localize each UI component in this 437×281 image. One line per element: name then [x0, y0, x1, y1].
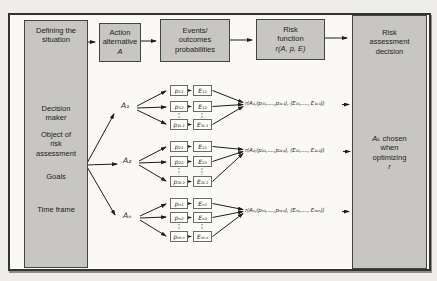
risk-formula-a1: r(A₁,(p₁₁,....,p₁ₖ₁), (E₁₁,...., E₁ₖ₁)) — [245, 100, 343, 106]
prob-box-12: p₁₂ — [170, 101, 188, 112]
fan-arrows — [86, 114, 117, 215]
event-box-21: E₂₁ — [193, 141, 212, 152]
action-alternative-box: Action alternative A — [99, 23, 141, 62]
formula-to-decision-arrows — [342, 105, 350, 212]
time-frame-label: Time frame — [25, 205, 87, 214]
risk-function-line1: Risk — [257, 25, 324, 34]
prob-box-2k: p₂ₖ₂ — [170, 176, 188, 187]
decision-maker-label: Decision maker — [25, 104, 87, 123]
action-line2: alternative — [100, 37, 140, 46]
risk-function-line2: function — [257, 34, 324, 43]
chosen-line3: optimizing — [353, 153, 426, 162]
event-box-11: E₁₁ — [193, 85, 212, 96]
chosen-rest: chosen — [380, 134, 406, 143]
action-an-label: Aₙ — [123, 211, 131, 220]
event-box-22: E₂₂ — [193, 156, 212, 167]
figure-canvas: Defining the situation Decision maker Ob… — [0, 0, 437, 281]
object-of-risk-assessment-label: Object of risk assessment — [25, 130, 87, 158]
chosen-when-optimizing-label: Aₖ chosenwhenoptimizingr — [353, 134, 426, 172]
risk-formula-an: r(Aₙ,(pₙ₁,....,pₙₖₙ), (Eₙ₁,...., Eₙₖₙ)) — [245, 207, 343, 213]
prob-to-event-arrows — [189, 91, 191, 237]
event-box-n1: Eₙ₁ — [193, 198, 212, 209]
prob-box-22: p₂₂ — [170, 156, 188, 167]
a1-to-prob-arrows — [137, 91, 166, 124]
risk-function-expression: r(A, p, E) — [257, 44, 324, 53]
events-outcomes-label: Events/ outcomes probabilities — [161, 26, 229, 54]
event-box-nk: Eₙₖₙ — [193, 231, 212, 242]
a2-to-prob-arrows — [139, 147, 166, 181]
event-box-1k: E₁ₖ₁ — [193, 119, 212, 130]
prob-box-21: p₂₁ — [170, 141, 188, 152]
prob-box-n1: pₙ₁ — [170, 198, 188, 209]
events-outcomes-box: Events/ outcomes probabilities — [160, 19, 230, 62]
event-box-2k: E₂ₖ₂ — [193, 176, 212, 187]
event-box-n2: Eₙ₂ — [193, 212, 212, 223]
action-a2-label: A₂ — [123, 156, 131, 165]
event-box-12: E₁₂ — [193, 101, 212, 112]
risk-assessment-decision-label: Risk assessment decision — [353, 28, 426, 56]
defining-situation-box: Defining the situation Decision maker Ob… — [24, 20, 88, 268]
risk-function-box: Risk function r(A, p, E) — [256, 19, 325, 60]
risk-assessment-decision-box: Risk assessment decision Aₖ chosenwhenop… — [352, 15, 427, 269]
risk-formula-a2: r(A₂,(p₂₁,....,p₂ₖ₂), (E₂₁,...., E₂ₖ₂)) — [245, 147, 343, 153]
event-to-formula-arrows — [213, 91, 244, 237]
chosen-line2: when — [353, 143, 426, 152]
action-variable: A — [100, 47, 140, 56]
chosen-r-symbol: r — [353, 162, 426, 171]
action-a1-label: A₁ — [121, 101, 129, 110]
prob-box-11: p₁₁ — [170, 85, 188, 96]
prob-box-n2: pₙ₂ — [170, 212, 188, 223]
defining-situation-label: Defining the situation — [25, 26, 87, 45]
goals-label: Goals — [25, 172, 87, 181]
prob-box-nk: pₙₖₙ — [170, 231, 188, 242]
an-to-prob-arrows — [140, 204, 166, 236]
prob-box-1k: p₁ₖ₁ — [170, 119, 188, 130]
action-line1: Action — [100, 28, 140, 37]
